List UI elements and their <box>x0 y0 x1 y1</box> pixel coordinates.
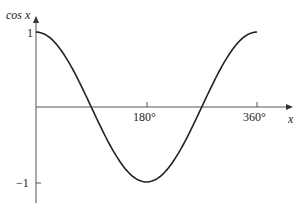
y-axis-label: cos x <box>6 8 31 22</box>
y-tick-label-one: 1 <box>27 26 33 40</box>
x-tick-label-360: 360° <box>243 110 266 124</box>
x-tick-label-180: 180° <box>133 110 156 124</box>
cos-graph: cos x 1 −1 180° 360° x <box>0 0 308 211</box>
x-axis-label: x <box>287 112 294 126</box>
y-tick-label-neg-one: −1 <box>16 176 29 190</box>
